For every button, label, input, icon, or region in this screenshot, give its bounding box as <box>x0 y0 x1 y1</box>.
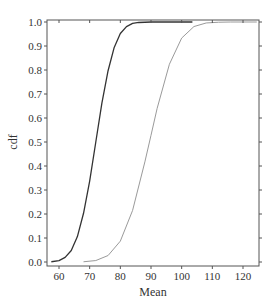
y-tick-label: 1.0 <box>28 16 42 28</box>
x-tick-label: 110 <box>204 270 221 282</box>
y-tick-label: 0.0 <box>28 256 42 268</box>
x-tick-label: 70 <box>84 270 96 282</box>
x-tick-label: 60 <box>54 270 66 282</box>
dark-cdf-curve <box>51 22 192 262</box>
plot-area <box>51 22 256 262</box>
y-tick-label: 0.4 <box>28 160 42 172</box>
x-tick-label: 120 <box>235 270 252 282</box>
y-tick-label: 0.7 <box>28 88 42 100</box>
x-tick-label: 100 <box>173 270 190 282</box>
y-axis-label: cdf <box>6 134 20 149</box>
y-tick-label: 0.8 <box>28 64 42 76</box>
axes: 607080901001101200.00.10.20.30.40.50.60.… <box>28 16 262 282</box>
x-tick-label: 90 <box>146 270 158 282</box>
y-tick-label: 0.9 <box>28 40 42 52</box>
x-axis-label: Mean <box>139 285 166 299</box>
y-tick-label: 0.5 <box>28 136 42 148</box>
y-tick-label: 0.6 <box>28 112 42 124</box>
light-cdf-curve <box>84 22 257 262</box>
y-tick-label: 0.2 <box>28 208 42 220</box>
y-tick-label: 0.1 <box>28 232 42 244</box>
x-tick-label: 80 <box>115 270 127 282</box>
y-tick-label: 0.3 <box>28 184 42 196</box>
cdf-chart: 607080901001101200.00.10.20.30.40.50.60.… <box>0 0 275 305</box>
